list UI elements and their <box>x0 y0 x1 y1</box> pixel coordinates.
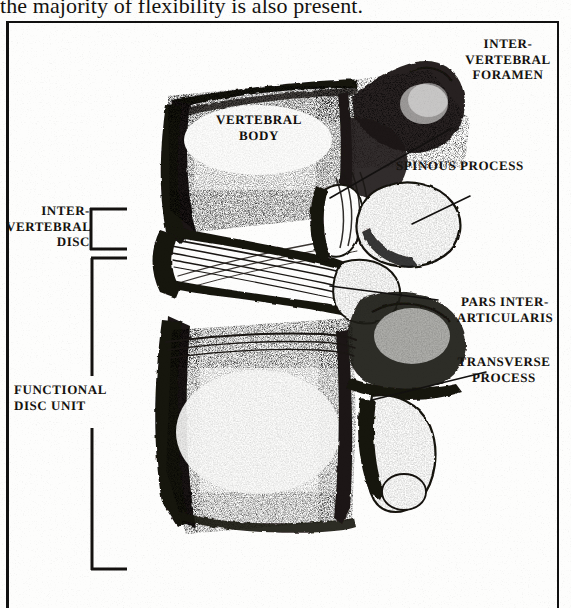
label-intervertebral-foramen: INTER- VERTEBRAL FORAMEN <box>452 36 564 83</box>
label-pars-interarticularis: PARS INTER- ARTICULARIS <box>443 294 567 325</box>
label-vertebral-body: VERTEBRAL BODY <box>200 112 318 143</box>
body-text-line: the majority of flexibility is also pres… <box>0 0 571 21</box>
label-transverse-process: TRANSVERSE PROCESS <box>443 354 565 385</box>
label-intervertebral-disc: INTER- VERTEBRAL DISC <box>6 203 90 250</box>
label-spinous-process: SPINOUS PROCESS <box>396 158 564 174</box>
figure-page: the majority of flexibility is also pres… <box>0 0 571 608</box>
label-functional-disc-unit: FUNCTIONAL DISC UNIT <box>14 382 118 413</box>
